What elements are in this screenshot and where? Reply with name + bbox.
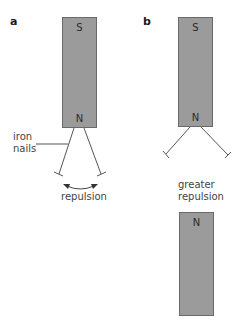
iron-nail-left-b: [163, 127, 190, 158]
iron-nail-right-b: [201, 127, 231, 158]
pole-s-label: S: [179, 22, 212, 33]
iron-nails-label-line2: nails: [13, 143, 36, 155]
iron-nails-label: iron nails: [13, 131, 36, 155]
pole-s-label: S: [63, 22, 96, 33]
greater-repulsion-line2: repulsion: [178, 191, 224, 203]
repulsion-arrow: [63, 184, 98, 189]
greater-repulsion-label: greater repulsion: [178, 179, 224, 203]
panel-label-b: b: [143, 15, 151, 28]
panel-label-a: a: [10, 15, 17, 28]
bar-magnet-a: S N: [62, 17, 97, 128]
pole-n-label: N: [179, 112, 212, 123]
pole-n-label: N: [180, 217, 213, 228]
repulsion-label: repulsion: [61, 191, 107, 203]
iron-nail-right-a: [84, 128, 106, 176]
iron-nails-label-line1: iron: [13, 131, 36, 143]
pole-n-label: N: [63, 113, 96, 124]
greater-repulsion-line1: greater: [178, 179, 224, 191]
bar-magnet-b-top: S N: [178, 17, 213, 127]
bar-magnet-b-bottom: N: [179, 212, 214, 316]
iron-nail-left-a: [54, 128, 74, 176]
